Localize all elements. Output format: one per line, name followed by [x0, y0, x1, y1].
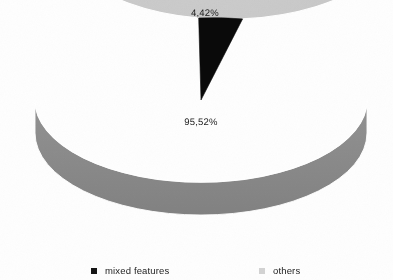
legend-swatch-icon-others: [259, 268, 265, 274]
legend-swatch-icon-mixed-features: [91, 268, 97, 274]
chart-legend: mixed features others: [0, 262, 393, 280]
legend-label-mixed-features: mixed features: [105, 266, 169, 276]
pie-chart-figure: 4,42% 95,52% mixed features others: [0, 0, 393, 280]
legend-item-mixed-features[interactable]: mixed features: [91, 264, 169, 278]
pie-chart-canvas: [0, 0, 393, 280]
legend-item-others[interactable]: others: [259, 264, 300, 278]
pie-label-mixed-features: 4,42%: [191, 8, 219, 19]
pie-slice-mixed-features[interactable]: [199, 18, 243, 100]
pie-slice-others[interactable]: [61, 0, 393, 100]
legend-label-others: others: [273, 266, 300, 276]
pie-label-others: 95,52%: [184, 117, 217, 128]
